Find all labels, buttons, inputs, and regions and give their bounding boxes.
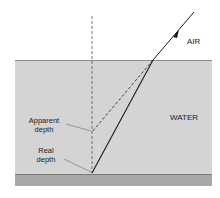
air-label: AIR <box>187 37 201 46</box>
real-depth-label-2: depth <box>37 155 56 164</box>
refraction-diagram: AIR WATER Apparent depth Real depth <box>0 0 220 198</box>
water-label: WATER <box>170 113 198 122</box>
incident-ray <box>153 12 194 60</box>
apparent-depth-label-2: depth <box>35 125 54 134</box>
real-depth-label-1: Real <box>38 146 54 155</box>
apparent-depth-label-1: Apparent <box>29 116 60 125</box>
arrow-icon <box>173 30 179 38</box>
bottom-band <box>15 174 212 186</box>
